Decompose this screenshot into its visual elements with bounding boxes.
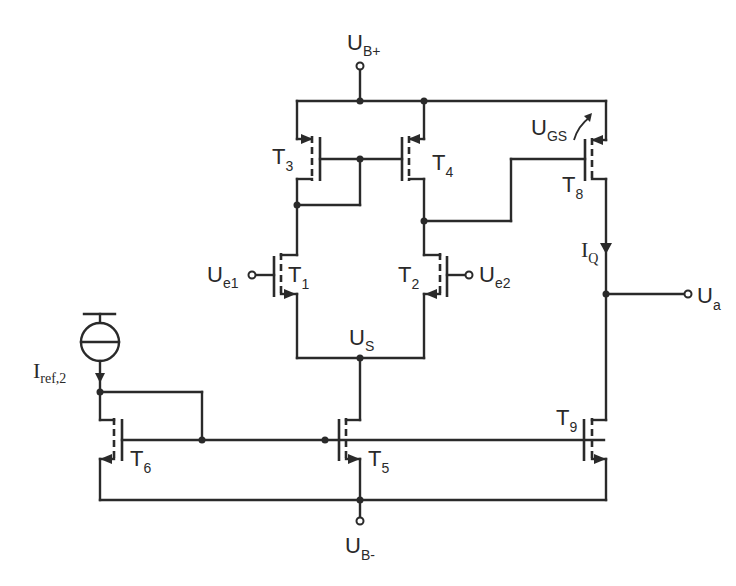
supply-ub-plus: UB+ (347, 30, 380, 101)
svg-text:Ue2: Ue2 (479, 262, 511, 291)
svg-text:UB+: UB+ (347, 30, 380, 59)
circuit-diagram: UB+ T3 T4 (0, 0, 736, 586)
transistor-t5: T5 (339, 358, 389, 500)
label-ua: Ua (697, 283, 721, 313)
svg-text:UGS: UGS (531, 115, 567, 144)
svg-text:T6: T6 (130, 446, 151, 476)
terminal-ue1 (249, 272, 256, 279)
svg-text:IQ: IQ (581, 237, 598, 266)
terminal-ub-minus (357, 518, 364, 525)
svg-text:UB-: UB- (345, 533, 375, 563)
svg-text:T1: T1 (288, 262, 309, 292)
label-us: US (349, 325, 374, 354)
current-source-iref: Iref,2 (33, 314, 119, 392)
svg-text:T5: T5 (368, 446, 389, 476)
iq-arrow (600, 243, 612, 254)
transistor-t3: T3 (272, 101, 320, 205)
transistor-t4: T4 (402, 101, 453, 221)
supply-ub-minus: UB- (345, 500, 375, 563)
terminal-ue2 (466, 272, 473, 279)
terminal-ua (685, 291, 692, 298)
svg-text:T3: T3 (272, 144, 293, 174)
svg-text:Ue1: Ue1 (207, 262, 239, 291)
svg-text:Iref,2: Iref,2 (33, 358, 66, 386)
transistor-t9: T9 (556, 405, 606, 500)
terminal-ub-plus (357, 63, 364, 70)
svg-text:T2: T2 (398, 262, 419, 292)
svg-text:T4: T4 (432, 150, 453, 180)
transistor-t1: T1 Ue1 (207, 205, 309, 358)
svg-text:T9: T9 (556, 405, 577, 435)
svg-text:T8: T8 (562, 172, 583, 202)
transistor-t6: T6 (100, 392, 151, 500)
transistor-t2: T2 Ue2 (398, 221, 511, 358)
